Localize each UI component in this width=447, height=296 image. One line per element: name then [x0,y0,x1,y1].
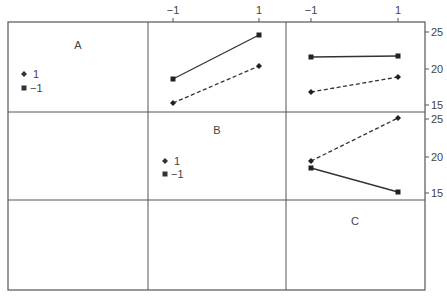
right-y-axis-row-0: 25 20 15 [425,26,443,111]
diamond-marker-icon [308,158,314,164]
series-line-minus1 [311,168,398,192]
series-line-plus1 [173,66,259,103]
legend-label: 1 [33,68,39,80]
series-line-minus1 [311,56,398,57]
legend-label: −1 [30,82,43,94]
diamond-marker-icon [256,63,262,69]
square-marker-icon [396,190,401,195]
square-marker-icon [257,33,262,38]
y-tick-label: 15 [431,99,443,111]
diamond-marker-icon [162,158,168,164]
x-tick-label: 1 [395,4,401,16]
x-tick-label: 1 [256,4,262,16]
y-tick-label: 25 [431,26,443,38]
diamond-marker-icon [308,89,314,95]
plot-frame [8,22,425,290]
square-marker-icon [309,166,314,171]
diamond-marker-icon [395,74,401,80]
x-tick-label: −1 [167,4,180,16]
panel-c-label-cell: C [351,215,359,227]
y-tick-label: 15 [431,187,443,199]
series-line-plus1 [311,118,398,161]
square-marker-icon [309,55,314,60]
x-tick-label: −1 [305,4,318,16]
panel-a-by-b [170,33,262,107]
y-tick-label: 20 [431,63,443,75]
panel-a-label-cell: A 1 −1 [21,39,82,94]
diamond-marker-icon [170,100,176,106]
series-line-plus1 [311,77,398,92]
panel-b-by-c [308,115,401,195]
factor-label-a: A [74,39,82,51]
diamond-marker-icon [395,115,401,121]
y-tick-label: 25 [431,113,443,125]
diamond-marker-icon [21,71,27,77]
panel-a-by-c [308,54,401,96]
square-marker-icon [22,86,27,91]
legend-label: 1 [174,155,180,167]
square-marker-icon [396,54,401,59]
factor-label-b: B [213,124,220,136]
panel-b-label-cell: B 1 −1 [162,124,221,180]
legend-label: −1 [171,168,184,180]
interaction-plot-matrix: −1 1 −1 1 25 20 15 25 20 15 A 1 −1 B 1 −… [0,0,447,296]
square-marker-icon [171,77,176,82]
series-line-minus1 [173,35,259,79]
factor-label-c: C [351,215,359,227]
square-marker-icon [163,172,168,177]
top-x-axis: −1 1 −1 1 [167,4,401,22]
right-y-axis-row-1: 25 20 15 [425,113,443,199]
y-tick-label: 20 [431,151,443,163]
